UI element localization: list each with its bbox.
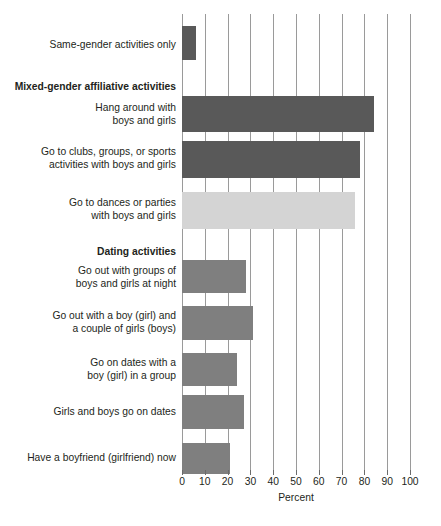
plot-area bbox=[182, 14, 410, 470]
bar[interactable] bbox=[182, 192, 355, 229]
bar[interactable] bbox=[182, 306, 253, 340]
category-label: Go out with groups of boys and girls at … bbox=[0, 264, 176, 291]
category-label: Go to dances or parties with boys and gi… bbox=[0, 196, 176, 223]
x-axis-title: Percent bbox=[182, 492, 410, 503]
bar-row bbox=[182, 96, 410, 132]
x-tick-20 bbox=[228, 470, 229, 475]
x-tick-0 bbox=[182, 470, 183, 475]
x-tick-label-80: 80 bbox=[359, 476, 370, 488]
x-tick-50 bbox=[296, 470, 297, 475]
group-header-label: Mixed-gender affiliative activities bbox=[0, 80, 176, 93]
bar-row bbox=[182, 141, 410, 178]
category-label: Girls and boys go on dates bbox=[0, 405, 176, 418]
category-label: Go to clubs, groups, or sports activitie… bbox=[0, 145, 176, 172]
x-tick-label-50: 50 bbox=[290, 476, 301, 488]
bar-row bbox=[182, 260, 410, 293]
x-tick-60 bbox=[319, 470, 320, 475]
x-tick-70 bbox=[342, 470, 343, 475]
x-tick-30 bbox=[250, 470, 251, 475]
x-tick-label-60: 60 bbox=[313, 476, 324, 488]
x-tick-label-20: 20 bbox=[222, 476, 233, 488]
category-label: Hang around with boys and girls bbox=[0, 101, 176, 128]
x-tick-10 bbox=[205, 470, 206, 475]
x-tick-label-70: 70 bbox=[336, 476, 347, 488]
category-label: Go out with a boy (girl) and a couple of… bbox=[0, 309, 176, 336]
x-tick-label-100: 100 bbox=[401, 476, 418, 488]
bar[interactable] bbox=[182, 395, 244, 429]
x-tick-label-90: 90 bbox=[381, 476, 392, 488]
group-header-label: Dating activities bbox=[0, 245, 176, 258]
bar[interactable] bbox=[182, 141, 360, 178]
x-axis: 0102030405060708090100 bbox=[182, 470, 410, 471]
bar-row bbox=[182, 353, 410, 386]
category-label: Go on dates with a boy (girl) in a group bbox=[0, 356, 176, 383]
x-tick-40 bbox=[273, 470, 274, 475]
bar-row bbox=[182, 192, 410, 229]
x-tick-label-30: 30 bbox=[245, 476, 256, 488]
x-tick-label-40: 40 bbox=[267, 476, 278, 488]
x-tick-label-10: 10 bbox=[199, 476, 210, 488]
x-tick-100 bbox=[410, 470, 411, 475]
category-label: Have a boyfriend (girlfriend) now bbox=[0, 451, 176, 464]
x-tick-label-0: 0 bbox=[179, 476, 185, 488]
bar[interactable] bbox=[182, 353, 237, 386]
bar-row bbox=[182, 26, 410, 60]
bar[interactable] bbox=[182, 96, 374, 132]
bar-row bbox=[182, 395, 410, 429]
x-tick-90 bbox=[387, 470, 388, 475]
bar-chart: Same-gender activities onlyMixed-gender … bbox=[0, 0, 441, 526]
x-tick-80 bbox=[364, 470, 365, 475]
category-label: Same-gender activities only bbox=[0, 38, 176, 51]
bar[interactable] bbox=[182, 26, 196, 60]
gridline-100 bbox=[410, 14, 411, 470]
bar[interactable] bbox=[182, 260, 246, 293]
bar-row bbox=[182, 306, 410, 340]
